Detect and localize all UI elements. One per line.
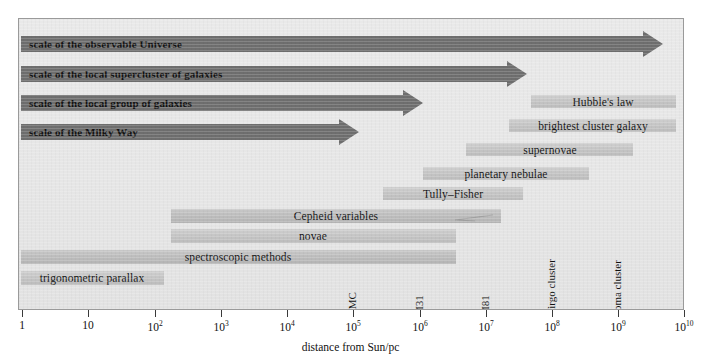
method-bar-label-hubbles-law: Hubble's law — [572, 97, 633, 109]
method-bar-label-supernovae: supernovae — [523, 145, 576, 157]
axis-tick-label: 108 — [544, 319, 559, 333]
object-marker-m31: M31 — [414, 295, 425, 310]
object-marker-lmc: LMC — [347, 292, 358, 310]
axis-tick-label: 107 — [478, 319, 493, 333]
object-marker-coma-cluster: coma cluster — [612, 260, 623, 310]
x-axis: 1101021031041051061071081091010 — [18, 310, 684, 311]
axis-tick-label: 104 — [279, 319, 294, 333]
method-bar-label-planetary-nebulae: planetary nebulae — [464, 169, 547, 181]
axis-tick — [618, 310, 619, 317]
axis-tick-label: 109 — [610, 319, 625, 333]
axis-tick — [684, 310, 685, 317]
axis-tick — [22, 310, 23, 317]
method-bar-label-novae: novae — [299, 231, 327, 243]
axis-tick — [486, 310, 487, 317]
plot-panel: scale of the observable Universescale of… — [18, 18, 684, 310]
axis-tick — [221, 310, 222, 317]
axis-tick — [552, 310, 553, 317]
method-bar-label-spectroscopic-methods: spectroscopic methods — [185, 252, 292, 264]
x-axis-title: distance from Sun/pc — [0, 341, 701, 353]
scale-arrow-label-local-group: scale of the local group of galaxies — [29, 98, 192, 109]
method-bar-label-trigonometric-parallax: trigonometric parallax — [40, 273, 145, 285]
axis-tick-label: 106 — [412, 319, 427, 333]
distance-ladder-figure: scale of the observable Universescale of… — [0, 0, 701, 364]
axis-tick — [88, 310, 89, 317]
axis-tick — [287, 310, 288, 317]
axis-tick — [420, 310, 421, 317]
object-marker-m81: M81 — [480, 295, 491, 310]
axis-tick — [155, 310, 156, 317]
scale-arrow-label-milky-way: scale of the Milky Way — [29, 127, 138, 138]
axis-tick-label: 102 — [147, 319, 162, 333]
method-bar-label-cepheid-variables: Cepheid variables — [294, 211, 378, 223]
method-bar-label-tully-fisher: Tully–Fisher — [423, 189, 483, 201]
axis-tick-label: 1 — [19, 319, 25, 331]
scale-arrow-label-local-supercluster: scale of the local supercluster of galax… — [29, 69, 222, 80]
axis-tick-label: 105 — [345, 319, 360, 333]
axis-tick-label: 103 — [213, 319, 228, 333]
axis-tick — [353, 310, 354, 317]
axis-tick-label: 10 — [82, 319, 94, 331]
scale-arrow-label-observable-universe: scale of the observable Universe — [29, 39, 182, 50]
object-marker-virgo-cluster: Virgo cluster — [546, 259, 557, 310]
method-bar-label-brightest-cluster-galaxy: brightest cluster galaxy — [538, 121, 648, 133]
axis-tick-label: 1010 — [675, 319, 694, 333]
